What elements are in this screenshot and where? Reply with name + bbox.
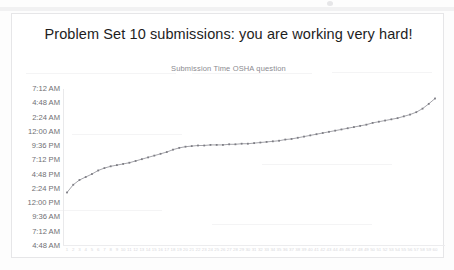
x-axis-tick-label: 5 [91,247,93,252]
data-point-marker [428,103,430,105]
x-axis-tick-label: 55 [401,247,406,252]
x-axis-tick-label: 15 [152,247,157,252]
x-axis-tick-label: 24 [208,247,213,252]
x-axis-tick-label: 33 [264,247,269,252]
data-point-marker [235,143,237,145]
data-point-marker [178,147,180,149]
data-point-marker [191,145,193,147]
x-axis-tick-label: 41 [314,247,319,252]
data-point-marker [128,162,130,164]
x-axis-tick-label: 12 [133,247,138,252]
data-point-marker [316,133,318,135]
x-axis-tick-label: 22 [196,247,201,252]
x-axis-tick-label: 37 [289,247,294,252]
data-point-marker [85,176,87,178]
x-axis-tick-label: 50 [370,247,375,252]
data-point-marker [166,151,168,153]
y-axis-tick-label: 12:00 AM [12,128,60,136]
y-axis-tick-label: 4:48 AM [12,99,60,107]
x-axis-tick-label: 17 [164,247,169,252]
data-point-marker [365,124,367,126]
x-axis-tick-label: 1 [66,247,68,252]
scan-streak [26,73,176,74]
x-axis-tick-label: 49 [364,247,369,252]
x-axis-tick-label: 30 [245,247,250,252]
x-axis-tick-label: 2 [72,247,74,252]
x-axis-tick-label: 36 [283,247,288,252]
x-axis-tick-label: 8 [109,247,111,252]
plot-area [63,89,445,246]
data-point-marker [309,134,311,136]
y-axis-tick-label: 4:48 AM [12,242,60,250]
y-axis-tick-label: 9:36 AM [12,213,60,221]
x-axis-tick-label: 11 [127,247,132,252]
data-point-marker [122,163,124,165]
data-point-marker [116,164,118,166]
data-point-marker [104,167,106,169]
x-axis-tick-label: 21 [189,247,194,252]
data-point-marker [197,145,199,147]
x-axis-tick-label: 9 [116,247,118,252]
x-axis-tick-label: 53 [389,247,394,252]
data-point-marker [278,140,280,142]
data-point-marker [253,142,255,144]
scan-artifact-speck [327,1,333,6]
data-point-marker [222,144,224,146]
submission-time-series [63,89,445,246]
data-point-marker [397,117,399,119]
x-axis-tick-label: 16 [158,247,163,252]
x-axis-tick-label: 48 [358,247,363,252]
x-axis-tick-label: 31 [252,247,257,252]
x-axis-tick-label: 51 [376,247,381,252]
x-axis-tick-label: 45 [339,247,344,252]
data-point-marker [135,160,137,162]
data-point-marker [384,120,386,122]
data-point-marker [303,136,305,138]
y-axis-tick-label: 7:12 AM [12,228,60,236]
scan-streak [192,73,312,74]
x-axis-tick-label: 39 [302,247,307,252]
data-point-marker [403,115,405,117]
y-axis-tick-label: 7:12 PM [12,156,60,164]
x-axis-tick-label: 18 [171,247,176,252]
x-axis-tick-label: 47 [351,247,356,252]
y-axis-tick-label: 7:12 AM [12,85,60,93]
x-axis-tick-label: 14 [146,247,151,252]
data-point-marker [66,192,68,194]
data-point-marker [322,132,324,134]
data-point-marker [247,143,249,145]
data-point-marker [272,140,274,142]
scan-artifact-band [0,7,454,11]
data-point-marker [291,138,293,140]
x-axis-tick-label: 54 [395,247,400,252]
x-axis-tick-label: 32 [258,247,263,252]
data-point-marker [72,184,74,186]
x-axis-tick-label: 28 [233,247,238,252]
x-axis-tick-label: 40 [308,247,313,252]
data-point-marker [347,127,349,129]
x-axis-tick-label: 23 [202,247,207,252]
x-axis-tick-label: 58 [420,247,425,252]
y-axis-tick-label: 12:00 PM [12,199,60,207]
data-point-marker [334,130,336,132]
data-point-marker [153,155,155,157]
x-axis-tick-label: 43 [327,247,332,252]
x-axis-tick-label: 3 [78,247,80,252]
x-axis-tick-label: 25 [214,247,219,252]
data-point-marker [266,141,268,143]
chart-subtitle: Submission Time OSHA question [12,64,445,73]
data-point-marker [172,149,174,151]
x-axis-tick-label: 38 [295,247,300,252]
data-point-marker [415,111,417,113]
x-axis-tick-label: 26 [220,247,225,252]
data-point-marker [353,126,355,128]
y-axis-tick-label: 9:36 PM [12,142,60,150]
x-axis-tick-label: 56 [408,247,413,252]
x-axis-tick-label: 27 [227,247,232,252]
data-point-marker [185,146,187,148]
data-point-marker [259,142,261,144]
data-point-marker [110,165,112,167]
x-axis-tick-label: 4 [84,247,86,252]
x-axis-tick-labels: 1234567891011121314151617181920212223242… [63,247,445,257]
x-axis-tick-label: 59 [426,247,431,252]
